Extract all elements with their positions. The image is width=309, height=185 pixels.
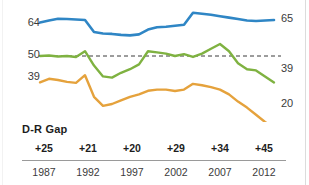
gap-values-row: +25 +21 +20 +29 +34 +45 bbox=[22, 142, 286, 154]
green-line-series bbox=[40, 44, 274, 82]
gap-value: +25 bbox=[22, 142, 66, 154]
axis-label-left-blue: 64 bbox=[20, 16, 40, 28]
x-tick-label: 2002 bbox=[154, 166, 198, 178]
axis-label-right-blue: 65 bbox=[281, 12, 305, 24]
axis-label-left-green: 50 bbox=[20, 48, 40, 60]
x-tick-label: 1992 bbox=[66, 166, 110, 178]
x-tick-label: 1987 bbox=[22, 166, 66, 178]
axis-label-left-orange: 39 bbox=[20, 70, 40, 82]
axis-label-right-orange: 20 bbox=[281, 97, 305, 109]
chart-figure: 64 50 39 65 39 20 D-R Gap +25 +21 +20 +2… bbox=[0, 0, 309, 185]
gap-value: +21 bbox=[66, 142, 110, 154]
line-chart-svg bbox=[0, 0, 309, 122]
orange-line-series bbox=[40, 75, 274, 122]
axis-label-right-green: 39 bbox=[281, 62, 305, 74]
gap-value: +29 bbox=[154, 142, 198, 154]
gap-section: D-R Gap +25 +21 +20 +29 +34 +45 1987 199… bbox=[0, 120, 309, 185]
x-tick-label: 2012 bbox=[242, 166, 286, 178]
x-axis-rule bbox=[22, 160, 286, 161]
blue-line-series bbox=[40, 13, 274, 36]
gap-value: +34 bbox=[198, 142, 242, 154]
plot-area: 64 50 39 65 39 20 bbox=[0, 0, 309, 122]
gap-value: +45 bbox=[242, 142, 286, 154]
x-tick-label: 1997 bbox=[110, 166, 154, 178]
x-axis-tick-labels: 1987 1992 1997 2002 2007 2012 bbox=[22, 166, 286, 178]
gap-section-title: D-R Gap bbox=[22, 123, 67, 135]
x-tick-label: 2007 bbox=[198, 166, 242, 178]
gap-value: +20 bbox=[110, 142, 154, 154]
